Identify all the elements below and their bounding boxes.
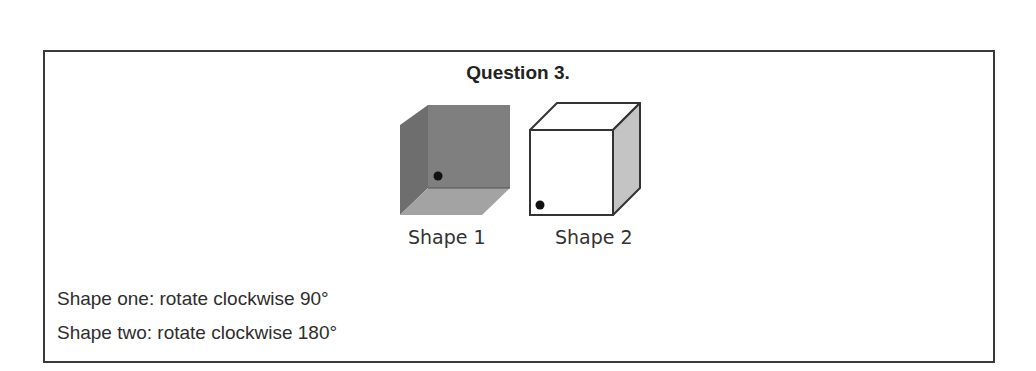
- shape-1-cube-icon: [400, 105, 510, 215]
- instruction-shape-two: Shape two: rotate clockwise 180°: [57, 322, 337, 344]
- shape-2-dot-icon: [536, 201, 545, 210]
- shape-1-label: Shape 1: [408, 226, 486, 248]
- shape-1-dot-icon: [434, 172, 443, 181]
- shape-2-cube-icon: [530, 103, 640, 215]
- question-title: Question 3.: [0, 62, 1036, 84]
- shape-2-label: Shape 2: [555, 226, 633, 248]
- instruction-shape-one: Shape one: rotate clockwise 90°: [57, 288, 329, 310]
- cube-figures: [390, 95, 650, 225]
